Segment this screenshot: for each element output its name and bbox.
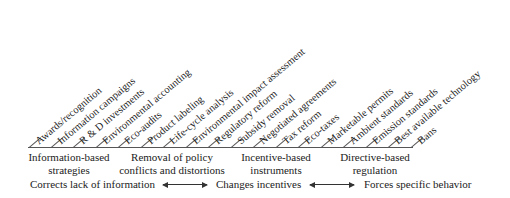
effect-corrects-lack-of-information: Corrects lack of information	[30, 178, 155, 190]
policy-instruments-diagram: Awards/recognition Information campaigns…	[0, 0, 510, 198]
effect-changes-incentives: Changes incentives	[216, 178, 301, 190]
group-subtitle: conflicts and distortions	[118, 164, 226, 177]
group-subtitle: instruments	[236, 164, 316, 177]
group-subtitle: strategies	[26, 164, 112, 177]
group-title: Incentive-based	[236, 151, 316, 164]
group-title: Removal of policy	[118, 151, 226, 164]
double-arrow-icon	[310, 184, 354, 185]
double-arrow-icon	[163, 184, 207, 185]
group-title: Information-based	[26, 151, 112, 164]
group-subtitle: regulation	[335, 164, 415, 177]
group-removal-of-policy-conflicts: Removal of policy conflicts and distorti…	[118, 151, 226, 177]
group-title: Directive-based	[335, 151, 415, 164]
baseline-axis	[28, 147, 413, 148]
group-incentive-based: Incentive-based instruments	[236, 151, 316, 177]
effect-forces-specific-behavior: Forces specific behavior	[364, 178, 472, 190]
group-directive-based: Directive-based regulation	[335, 151, 415, 177]
group-information-based: Information-based strategies	[26, 151, 112, 177]
